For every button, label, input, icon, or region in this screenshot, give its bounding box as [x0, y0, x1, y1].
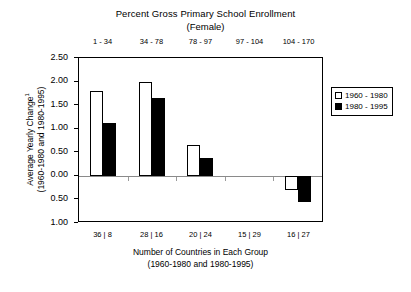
y-axis-title: Average Yearly Change1 [24, 57, 35, 222]
x-axis-title-period: (1960-1980 and 1980-1995) [78, 259, 323, 269]
legend-label: 1960 - 1980 [345, 92, 388, 100]
y-axis-tick [74, 222, 78, 223]
chart-subtitle: (Female) [0, 21, 411, 32]
group-count-label: 20 | 24 [176, 230, 225, 242]
bar [187, 145, 200, 176]
group-separator-tick [225, 177, 226, 181]
bar [285, 176, 298, 190]
bar [200, 158, 213, 176]
legend: 1960 - 19801980 - 1995 [331, 87, 393, 116]
bar [90, 91, 103, 176]
bar [103, 123, 116, 176]
category-label-top: 97 - 104 [225, 37, 274, 49]
group-separator-tick [128, 177, 129, 181]
y-axis-title-footnote-marker: 1 [24, 93, 30, 96]
y-axis-tick [74, 104, 78, 105]
bar-group [128, 58, 177, 221]
category-label-top: 104 - 170 [274, 37, 323, 49]
category-label-top: 34 - 78 [127, 37, 176, 49]
plot-area [78, 57, 323, 222]
bar [139, 82, 152, 176]
y-axis-tick [74, 57, 78, 58]
y-axis-title-period: (1960-1980 and 1980-1995) [36, 57, 46, 222]
chart-title: Percent Gross Primary School Enrollment [0, 8, 411, 19]
y-axis-tick [74, 175, 78, 176]
y-axis-tick [74, 198, 78, 199]
group-count-label: 16 | 27 [274, 230, 323, 242]
bar-group [225, 58, 274, 221]
group-count-label: 36 | 8 [78, 230, 127, 242]
group-separator-tick [176, 177, 177, 181]
bar-group [176, 58, 225, 221]
bar-groups [79, 58, 322, 221]
x-axis-title: Number of Countries in Each Group [78, 247, 323, 257]
group-count-label: 28 | 16 [127, 230, 176, 242]
category-labels-top: 1 - 3434 - 7878 - 9797 - 104104 - 170 [78, 37, 323, 49]
legend-swatch-light [335, 92, 342, 99]
legend-item[interactable]: 1980 - 1995 [335, 101, 388, 112]
legend-label: 1980 - 1995 [345, 103, 388, 111]
group-separator-tick [273, 177, 274, 181]
y-axis-tick [74, 151, 78, 152]
group-count-labels: 36 | 828 | 1620 | 2415 | 2916 | 27 [78, 230, 323, 242]
category-label-top: 1 - 34 [78, 37, 127, 49]
category-label-top: 78 - 97 [176, 37, 225, 49]
bar-group [79, 58, 128, 221]
bar [152, 98, 165, 176]
bar [298, 176, 311, 202]
legend-item[interactable]: 1960 - 1980 [335, 90, 388, 101]
y-axis-tick [74, 128, 78, 129]
legend-swatch-dark [335, 103, 342, 110]
chart-figure: Percent Gross Primary School Enrollment … [0, 0, 411, 292]
group-count-label: 15 | 29 [225, 230, 274, 242]
bar-group [273, 58, 322, 221]
y-axis-tick [74, 81, 78, 82]
